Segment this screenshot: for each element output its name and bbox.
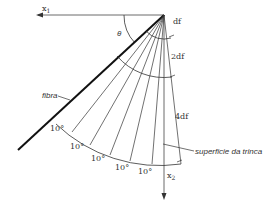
x1-axis <box>36 13 164 18</box>
x2-label: x2 <box>167 171 176 181</box>
x1-arrow-icon <box>36 13 43 18</box>
fan-lines <box>72 15 181 164</box>
theta-arc <box>124 15 135 43</box>
x1-label: x1 <box>42 4 50 14</box>
df-label: df <box>173 17 182 26</box>
svg-text:10°: 10° <box>91 154 105 163</box>
theta-label: θ <box>117 29 122 38</box>
fiber-leader <box>58 96 70 100</box>
x2-axis <box>162 15 167 200</box>
fiber-label: fibra <box>42 91 58 100</box>
2df-label: 2df <box>171 52 185 61</box>
svg-text:10°: 10° <box>70 142 84 151</box>
4df-label: 4df <box>175 112 189 121</box>
fiber-line <box>18 15 164 150</box>
crack-surface-label: superficie da trinca <box>195 147 263 156</box>
x2-arrow-icon <box>162 193 167 200</box>
svg-text:10°: 10° <box>115 163 129 172</box>
svg-text:10°: 10° <box>50 124 64 133</box>
svg-text:10°: 10° <box>138 167 152 176</box>
fiber-crack-diagram: x1 x2 θ fibra df 2df 4df superficie da t… <box>0 0 275 201</box>
